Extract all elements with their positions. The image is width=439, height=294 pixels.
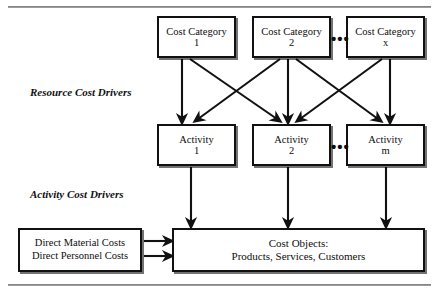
- activity-ellipsis: •••: [331, 139, 350, 154]
- cost-category-box-1: Cost Category 1: [157, 16, 236, 58]
- arrow-cat1-to-act2: [190, 59, 277, 119]
- label-resource-cost-drivers: Resource Cost Drivers: [30, 86, 131, 98]
- arrow-catx-to-act2: [300, 59, 382, 119]
- cost-objects-detail: Products, Services, Customers: [232, 250, 366, 263]
- cost-category-x-index: x: [383, 37, 388, 48]
- cost-objects-title: Cost Objects:: [269, 237, 329, 250]
- activity-1-title: Activity: [179, 134, 213, 145]
- arrow-cat2-to-act1: [198, 59, 280, 119]
- activity-box-2: Activity 2: [252, 124, 331, 166]
- direct-costs-box: Direct Material Costs Direct Personnel C…: [18, 228, 142, 272]
- figure-canvas: Resource Cost Drivers Activity Cost Driv…: [0, 0, 439, 294]
- cost-category-2-title: Cost Category: [261, 26, 321, 37]
- cost-category-box-2: Cost Category 2: [252, 16, 331, 58]
- cost-category-x-title: Cost Category: [355, 26, 415, 37]
- cost-category-1-index: 1: [194, 37, 199, 48]
- cost-category-1-title: Cost Category: [166, 26, 226, 37]
- activity-m-title: Activity: [368, 134, 402, 145]
- direct-material-costs-label: Direct Material Costs: [35, 237, 125, 250]
- cost-category-box-x: Cost Category x: [346, 16, 425, 58]
- activity-1-index: 1: [194, 145, 199, 156]
- direct-personnel-costs-label: Direct Personnel Costs: [32, 250, 128, 263]
- arrow-cat2-to-actm: [296, 59, 378, 119]
- cost-category-ellipsis: •••: [331, 31, 350, 46]
- activity-box-m: Activity m: [346, 124, 425, 166]
- activity-2-index: 2: [289, 145, 294, 156]
- activity-2-title: Activity: [274, 134, 308, 145]
- cost-category-2-index: 2: [289, 37, 294, 48]
- label-activity-cost-drivers: Activity Cost Drivers: [30, 188, 124, 200]
- cost-objects-box: Cost Objects: Products, Services, Custom…: [172, 228, 425, 272]
- activity-m-index: m: [381, 145, 389, 156]
- activity-box-1: Activity 1: [157, 124, 236, 166]
